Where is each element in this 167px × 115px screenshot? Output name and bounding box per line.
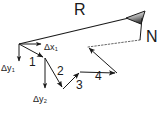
label-delta-x1-subscript: 1: [55, 46, 58, 52]
label-delta-x1-prefix: Δx: [44, 42, 55, 52]
label-delta-y2: Δy2: [33, 95, 47, 104]
label-delta-y2-prefix: Δy: [33, 94, 44, 104]
label-step-1: 1: [29, 56, 36, 68]
label-delta-y1-subscript: 1: [12, 67, 15, 73]
label-delta-y1: Δy1: [1, 64, 15, 73]
label-delta-x1: Δx1: [44, 43, 58, 52]
label-delta-y1-prefix: Δy: [1, 63, 12, 73]
dotted-construction-line: [88, 40, 140, 47]
resultant-vector-shaft: [19, 17, 133, 44]
label-step-4: 4: [95, 70, 102, 82]
resultant-arrowhead-icon: [126, 11, 145, 24]
label-step-3: 3: [76, 79, 83, 91]
label-step-2: 2: [57, 65, 64, 77]
label-normal-n: N: [146, 29, 158, 45]
vector-diagram: R N Δx1 Δy1 Δy2 1 2 3 4: [0, 0, 167, 115]
label-delta-y2-subscript: 2: [44, 98, 47, 104]
label-resultant-r: R: [74, 2, 86, 18]
upper-branch-vector: [89, 48, 117, 73]
